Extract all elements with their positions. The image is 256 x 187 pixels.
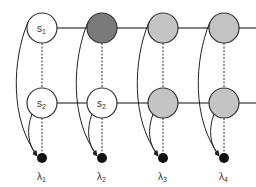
node-light-top [209, 13, 239, 43]
lambda-label: λ3 [158, 171, 167, 183]
node-dark-top [87, 13, 117, 43]
column-1: s1 s2 λ1 [27, 13, 57, 183]
lambda-node [219, 153, 229, 163]
column-2: s2 λ2 [87, 13, 117, 183]
column-3: λ3 [148, 13, 178, 183]
lambda-node [158, 153, 168, 163]
graphical-model-diagram: s1 s2 λ1 s2 λ2 λ3 λ4 [0, 0, 256, 187]
node-light-bottom [209, 88, 239, 118]
lambda-label: λ1 [37, 171, 46, 183]
lambda-node [37, 153, 47, 163]
lambda-label: λ4 [219, 171, 228, 183]
column-4: λ4 [209, 13, 239, 183]
lambda-node [97, 153, 107, 163]
dotted-vertical-edges [42, 43, 224, 153]
lambda-label: λ2 [97, 171, 106, 183]
node-light-top [148, 13, 178, 43]
node-light-bottom [148, 88, 178, 118]
